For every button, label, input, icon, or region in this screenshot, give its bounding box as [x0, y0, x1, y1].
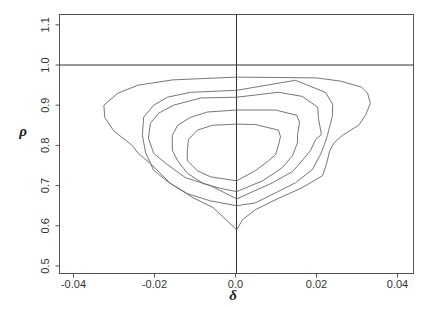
contour-line-5 — [187, 124, 280, 181]
contour-lines — [104, 77, 371, 230]
y-tick-label: 0.9 — [39, 98, 51, 113]
x-tick-label: -0.02 — [142, 278, 167, 290]
y-tick-label: 0.5 — [39, 258, 51, 273]
contour-chart: -0.04-0.020.00.020.04 0.50.60.70.80.91.0… — [0, 0, 434, 309]
x-tick-label: 0.02 — [306, 278, 327, 290]
y-tick-label: 1.0 — [39, 57, 51, 72]
x-axis-label: δ — [229, 287, 237, 303]
y-tick-label: 0.7 — [39, 178, 51, 193]
y-axis-ticks: 0.50.60.70.80.91.01.1 — [39, 17, 60, 273]
y-axis-label: ρ — [18, 123, 27, 139]
y-tick-label: 1.1 — [39, 17, 51, 32]
y-tick-label: 0.8 — [39, 138, 51, 153]
y-tick-label: 0.6 — [39, 218, 51, 233]
x-tick-label: -0.04 — [61, 278, 86, 290]
x-tick-label: 0.04 — [387, 278, 408, 290]
reference-lines — [60, 15, 414, 274]
